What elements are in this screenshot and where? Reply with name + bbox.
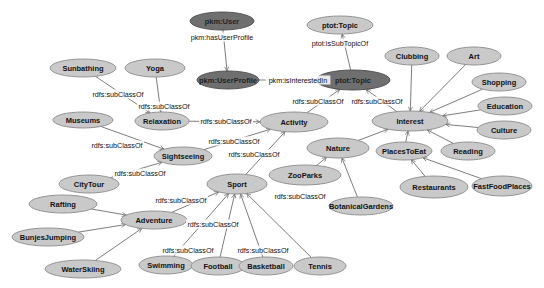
edge-label: rdfs:subClassOf bbox=[274, 192, 325, 201]
edge-label: rdfs:subClassOf bbox=[138, 102, 189, 111]
node-label: WaterSkiing bbox=[61, 265, 104, 274]
node-userprofile[interactable]: pkm:UserProfile bbox=[197, 71, 259, 89]
edge-label: pkm:isInterestedIn bbox=[269, 76, 328, 85]
node-label: Art bbox=[469, 52, 480, 61]
node-art[interactable]: Art bbox=[447, 47, 501, 65]
node-label: Tennis bbox=[308, 262, 332, 271]
node-label: Restaurants bbox=[412, 183, 455, 192]
node-botanicalgardens[interactable]: BotanicalGardens bbox=[329, 197, 393, 215]
node-waterskiing[interactable]: WaterSkiing bbox=[45, 260, 121, 278]
edge-label: pkm:hasUserProfile bbox=[191, 33, 254, 42]
node-label: Basketball bbox=[247, 262, 285, 271]
node-museums[interactable]: Museums bbox=[53, 112, 113, 128]
edge-label: rdfs:subClassOf bbox=[351, 97, 402, 106]
edge-rafting-to-adventure bbox=[91, 209, 126, 215]
edge-waterskiing-to-adventure bbox=[95, 228, 142, 260]
edge-label: rdfs:subClassOf bbox=[200, 117, 251, 126]
node-label: Activity bbox=[280, 118, 308, 127]
node-label: Swimming bbox=[147, 261, 185, 270]
node-sightseeing[interactable]: Sightseeing bbox=[154, 147, 212, 165]
edge-label: rdfs:subClassOf bbox=[155, 196, 206, 205]
node-reading[interactable]: Reading bbox=[441, 142, 495, 160]
edge-botanicalgardens-to-nature bbox=[342, 158, 358, 197]
edge-label: rdfs:subClassOf bbox=[292, 97, 343, 106]
edge-art-to-interest bbox=[420, 65, 466, 112]
ontology-graph: pkm:Userpkm:UserProfileptot:Topicptot:To… bbox=[0, 0, 544, 288]
edge-label: rdfs:subClassOf bbox=[208, 137, 259, 146]
node-culture[interactable]: Culture bbox=[477, 121, 531, 139]
node-label: Nature bbox=[326, 144, 350, 153]
node-label: ZooParks bbox=[288, 171, 322, 180]
node-label: BunjesJumping bbox=[20, 233, 77, 242]
edge-label: rdfs:subClassOf bbox=[91, 141, 142, 150]
node-label: pkm:User bbox=[205, 17, 240, 26]
node-clubbing[interactable]: Clubbing bbox=[385, 47, 439, 65]
node-activity[interactable]: Activity bbox=[260, 112, 328, 132]
edge-label: rdfs:subClassOf bbox=[114, 169, 165, 178]
node-adventure[interactable]: Adventure bbox=[121, 211, 187, 229]
node-label: BotanicalGardens bbox=[329, 202, 393, 211]
node-relaxation[interactable]: Relaxation bbox=[135, 112, 189, 130]
edge-bunjesjumping-to-adventure bbox=[78, 225, 125, 233]
node-rafting[interactable]: Rafting bbox=[29, 195, 97, 213]
edge-education-to-interest bbox=[443, 110, 481, 116]
node-interest[interactable]: Interest bbox=[372, 111, 448, 131]
node-label: Football bbox=[203, 262, 232, 271]
node-label: Adventure bbox=[135, 216, 172, 225]
node-tennis[interactable]: Tennis bbox=[294, 257, 346, 275]
edge-restaurants-to-placestoeat bbox=[411, 160, 425, 177]
node-label: Education bbox=[487, 102, 524, 111]
node-swimming[interactable]: Swimming bbox=[139, 256, 193, 274]
edge-reading-to-interest bbox=[427, 130, 453, 144]
node-yoga[interactable]: Yoga bbox=[125, 59, 185, 77]
node-restaurants[interactable]: Restaurants bbox=[400, 176, 468, 198]
edge-label: ptot:isSubTopicOf bbox=[312, 39, 368, 48]
node-label: Yoga bbox=[146, 64, 165, 73]
edge-label: rdfs:subClassOf bbox=[162, 246, 213, 255]
node-label: pkm:UserProfile bbox=[199, 76, 257, 85]
node-label: Sightseeing bbox=[162, 152, 205, 161]
node-zooparks[interactable]: ZooParks bbox=[269, 165, 341, 185]
edge-label: rdfs:subClassOf bbox=[237, 246, 288, 255]
node-label: Sunbathing bbox=[62, 64, 104, 73]
node-topic_top[interactable]: ptot:Topic bbox=[307, 16, 373, 34]
node-label: CityTour bbox=[74, 180, 104, 189]
node-shopping[interactable]: Shopping bbox=[472, 73, 526, 91]
node-label: Sport bbox=[227, 180, 247, 189]
node-sunbathing[interactable]: Sunbathing bbox=[50, 59, 116, 77]
edge-label: rdfs:subClassOf bbox=[92, 90, 143, 99]
node-label: Rafting bbox=[50, 200, 76, 209]
node-label: Interest bbox=[396, 117, 424, 126]
node-basketball[interactable]: Basketball bbox=[239, 257, 293, 275]
node-label: ptot:Topic bbox=[335, 76, 371, 85]
node-label: Clubbing bbox=[396, 52, 429, 61]
node-football[interactable]: Football bbox=[191, 257, 245, 275]
node-label: Shopping bbox=[482, 78, 517, 87]
node-label: FastFoodPlaces bbox=[473, 182, 531, 191]
edge-culture-to-interest bbox=[446, 124, 478, 127]
node-label: PlacesToEat bbox=[382, 147, 427, 156]
edge-fastfoodplaces-to-placestoeat bbox=[423, 158, 482, 179]
edge-placestoeat-to-interest bbox=[406, 131, 408, 142]
edge-zooparks-to-nature bbox=[317, 157, 327, 165]
edge-nature-to-interest bbox=[358, 129, 388, 140]
node-label: Culture bbox=[491, 126, 517, 135]
node-label: Museums bbox=[66, 116, 101, 125]
node-label: ptot:Topic bbox=[322, 21, 358, 30]
node-nature[interactable]: Nature bbox=[307, 138, 369, 158]
node-sport[interactable]: Sport bbox=[207, 174, 267, 194]
node-bunjesjumping[interactable]: BunjesJumping bbox=[12, 228, 84, 246]
node-education[interactable]: Education bbox=[478, 97, 532, 115]
edge-clubbing-to-interest bbox=[410, 65, 411, 111]
node-fastfoodplaces[interactable]: FastFoodPlaces bbox=[472, 176, 532, 196]
edge-label: rdfs:subClassOf bbox=[187, 220, 238, 229]
node-user[interactable]: pkm:User bbox=[190, 12, 254, 30]
edge-label: rdfs:subClassOf bbox=[228, 150, 279, 159]
node-citytour[interactable]: CityTour bbox=[59, 175, 119, 193]
node-placestoeat[interactable]: PlacesToEat bbox=[376, 142, 432, 160]
node-label: Relaxation bbox=[143, 117, 181, 126]
node-label: Reading bbox=[453, 147, 483, 156]
